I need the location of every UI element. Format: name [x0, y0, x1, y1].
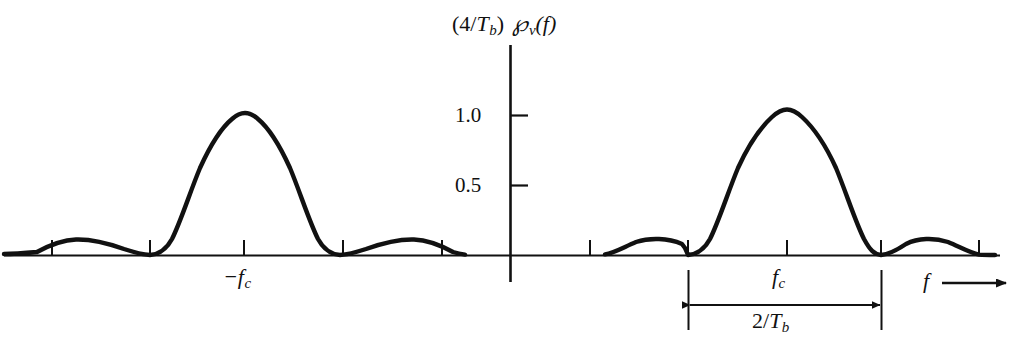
y-axis-label-T: T — [476, 11, 488, 36]
y-axis-label-mid: ) — [497, 11, 510, 36]
x-label-positive-fc: fc — [772, 266, 785, 291]
x-label-positive-fc-text: f — [772, 264, 778, 289]
y-axis-label-T-sub: b — [489, 22, 496, 38]
x-label-negative-fc-text: −f — [223, 264, 244, 289]
y-axis-label-suffix: (f) — [536, 11, 557, 36]
script-p-icon: ℘ — [509, 10, 528, 36]
y-tick-label-1.0: 1.0 — [455, 105, 481, 126]
y-axis-label-script-sub: v — [529, 22, 536, 38]
x-axis-label-f: f — [923, 270, 929, 292]
x-label-positive-fc-sub: c — [779, 275, 786, 291]
x-label-negative-fc-sub: c — [244, 275, 251, 291]
spectrum-curve-left — [4, 113, 465, 255]
bandwidth-label: 2/Tb — [752, 310, 789, 335]
bandwidth-label-T: T — [769, 308, 781, 333]
y-axis-label: (4/Tb) ℘v(f) — [452, 12, 556, 38]
spectrum-plot-canvas — [0, 0, 1020, 345]
y-tick-label-0.5: 0.5 — [455, 175, 481, 196]
spectrum-curve-right — [605, 110, 995, 256]
x-axis-ticks — [52, 240, 979, 255]
figure-root: (4/Tb) ℘v(f) 1.0 0.5 −fc fc 2/Tb f — [0, 0, 1020, 345]
x-label-negative-fc: −fc — [223, 266, 251, 291]
y-axis-label-prefix: (4/ — [452, 11, 476, 36]
bandwidth-label-num: 2/ — [752, 308, 769, 333]
bandwidth-label-sub: b — [782, 319, 789, 335]
